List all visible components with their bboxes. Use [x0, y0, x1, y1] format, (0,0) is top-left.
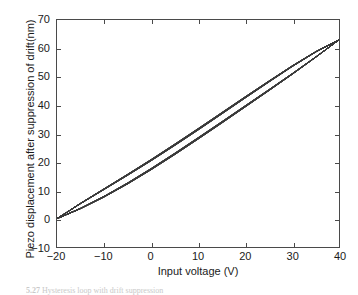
- x-tick-mark: [152, 243, 153, 247]
- x-tick-mark: [246, 20, 247, 24]
- figure-container: −20−10010203040 −10010203040506070 Input…: [0, 0, 358, 295]
- y-tick-mark: [57, 192, 61, 193]
- y-axis-title: Piezo displacement after suppression of …: [24, 9, 36, 269]
- x-tick-mark: [104, 20, 105, 24]
- y-tick-mark: [57, 49, 61, 50]
- x-tick-mark: [152, 20, 153, 24]
- x-tick-label: 30: [287, 250, 299, 262]
- x-tick-label: 0: [148, 250, 154, 262]
- x-tick-mark: [294, 20, 295, 24]
- x-tick-label: 40: [334, 250, 346, 262]
- y-tick-mark: [335, 163, 339, 164]
- x-tick-label: 20: [239, 250, 251, 262]
- y-tick-mark: [335, 77, 339, 78]
- x-axis-title: Input voltage (V): [56, 265, 340, 277]
- x-tick-label: −10: [94, 250, 113, 262]
- y-tick-mark: [335, 135, 339, 136]
- figure-caption: 5.27 Hysteresis loop with drift suppress…: [26, 286, 346, 295]
- y-tick-mark: [57, 77, 61, 78]
- figure-caption-number: 5.27: [26, 286, 40, 295]
- x-tick-mark: [104, 243, 105, 247]
- y-tick-mark: [57, 135, 61, 136]
- y-tick-mark: [335, 49, 339, 50]
- figure-caption-text: Hysteresis loop with drift suppression: [42, 286, 163, 295]
- y-tick-mark: [57, 106, 61, 107]
- x-tick-mark: [294, 243, 295, 247]
- y-tick-mark: [335, 220, 339, 221]
- plot-area: [56, 19, 340, 248]
- x-tick-mark: [199, 243, 200, 247]
- x-tick-label: 10: [192, 250, 204, 262]
- x-tick-mark: [246, 243, 247, 247]
- loop-cycles: [57, 40, 339, 219]
- x-tick-mark: [199, 20, 200, 24]
- y-tick-mark: [335, 106, 339, 107]
- y-tick-mark: [335, 192, 339, 193]
- y-tick-mark: [57, 163, 61, 164]
- hysteresis-loop-trace: [57, 20, 339, 247]
- y-tick-mark: [57, 220, 61, 221]
